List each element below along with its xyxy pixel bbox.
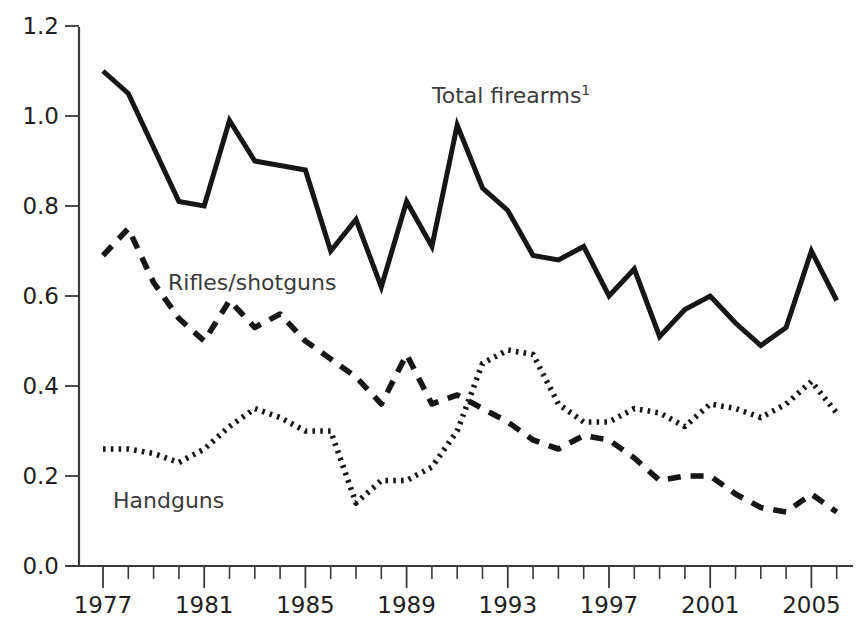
x-axis-tick-label: 1993 (479, 592, 538, 618)
y-axis-tick-label: 1.2 (22, 13, 59, 39)
y-axis-tick-label: 1.0 (22, 103, 59, 129)
series-line-total-firearms (103, 71, 837, 346)
series-line-handguns (103, 350, 837, 503)
x-axis-tick-label: 2005 (782, 592, 841, 618)
x-axis-tick-label: 1997 (580, 592, 639, 618)
x-axis-tick-label: 2001 (681, 592, 740, 618)
y-axis-tick-labels: 1.21.00.80.60.40.20.0 (22, 13, 59, 579)
x-axis-tick-label: 1989 (377, 592, 436, 618)
line-chart: 1.21.00.80.60.40.20.0 197719811985198919… (0, 0, 863, 644)
annotation-label: Handguns (113, 488, 224, 513)
series-annotations: Total firearms1Rifles/shotgunsHandguns (113, 82, 590, 513)
annotation-text: Total firearms (431, 83, 581, 108)
x-axis-tick-label: 1981 (175, 592, 234, 618)
x-axis-tick-label: 1977 (74, 592, 133, 618)
y-axis-tick-label: 0.0 (22, 553, 59, 579)
y-axis-tick-label: 0.8 (22, 193, 59, 219)
x-axis-tick-labels: 19771981198519891993199720012005 (74, 592, 841, 618)
chart-container: 1.21.00.80.60.40.20.0 197719811985198919… (0, 0, 863, 644)
annotation-superscript: 1 (581, 82, 590, 98)
y-axis-tick-label: 0.4 (22, 373, 59, 399)
annotation-label: Rifles/shotguns (168, 270, 336, 295)
y-axis-tick-label: 0.6 (22, 283, 59, 309)
y-axis-tick-label: 0.2 (22, 463, 59, 489)
x-axis-tick-label: 1985 (276, 592, 335, 618)
annotation-text: Rifles/shotguns (168, 270, 336, 295)
annotation-label: Total firearms1 (431, 82, 590, 108)
annotation-text: Handguns (113, 488, 224, 513)
